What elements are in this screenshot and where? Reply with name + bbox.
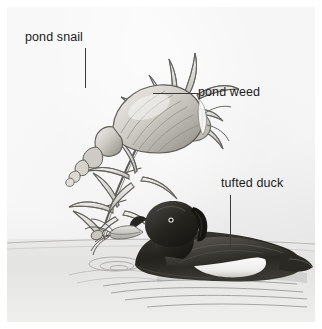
label-tufted-duck: tufted duck: [221, 176, 283, 190]
pond-snail-art: [66, 85, 231, 187]
leader-line-tufted-duck: [230, 195, 231, 247]
illustration-panel: pond snail pond weed tufted duck: [7, 7, 315, 322]
leader-line-pond-weed: [153, 93, 198, 94]
label-pond-weed: pond weed: [198, 85, 260, 99]
illustration-figure: pond snail pond weed tufted duck: [0, 0, 322, 329]
illustration-artwork: [7, 7, 315, 322]
leader-line-pond-snail: [85, 48, 86, 88]
label-pond-snail: pond snail: [25, 30, 83, 44]
